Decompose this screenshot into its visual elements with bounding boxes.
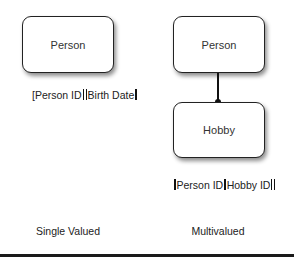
field-separator: [135, 89, 137, 100]
field-separator-double: [83, 89, 87, 100]
field-person-id: Person ID: [35, 89, 82, 101]
relationship-line: [217, 73, 219, 102]
person-entity-label: Person: [51, 39, 86, 51]
multivalued-record-layout: Person IDHobby ID: [173, 179, 276, 191]
hobby-entity: Hobby: [173, 102, 265, 158]
field-hobby-id: Hobby ID: [227, 179, 271, 191]
person-entity-multi: Person: [173, 16, 265, 73]
hobby-entity-label: Hobby: [203, 124, 235, 136]
field-birth-date: Birth Date: [88, 89, 135, 101]
multivalued-caption: Multivalued: [191, 225, 244, 237]
field-separator-double: [271, 179, 275, 190]
field-person-id: Person ID: [177, 179, 224, 191]
bottom-divider: [0, 254, 294, 257]
person-entity-label: Person: [202, 39, 237, 51]
field-separator: [224, 179, 226, 190]
field-separator: [174, 179, 176, 190]
single-valued-record-layout: [Person IDBirth Date: [32, 89, 138, 101]
single-valued-caption: Single Valued: [36, 225, 100, 237]
person-entity-single: Person: [22, 16, 114, 73]
